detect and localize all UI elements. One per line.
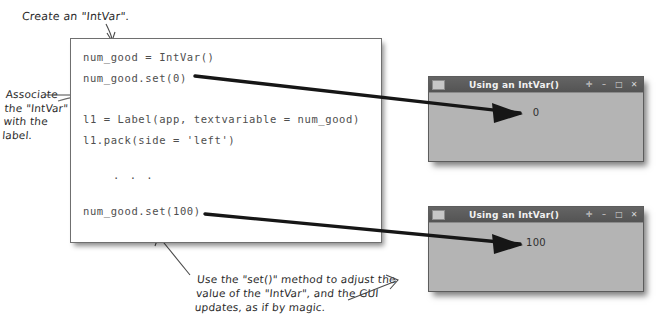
- tk-window-intvar-0[interactable]: Using an IntVar() ✛ – □ ✕ 0: [428, 76, 644, 162]
- title-bar[interactable]: Using an IntVar() ✛ – □ ✕: [429, 77, 643, 92]
- minimize-icon[interactable]: –: [600, 81, 608, 89]
- code-line: num_good.set(100): [83, 205, 201, 217]
- code-line: l1.pack(side = 'left'): [83, 134, 235, 146]
- pin-icon[interactable]: ✛: [585, 81, 593, 89]
- close-icon[interactable]: ✕: [630, 211, 638, 219]
- annotation-set-method: Use the "set()" method to adjust the val…: [194, 272, 396, 314]
- intvar-value-label: 100: [429, 237, 643, 248]
- app-icon: [432, 210, 445, 220]
- window-controls[interactable]: ✛ – □ ✕: [585, 81, 640, 89]
- window-controls[interactable]: ✛ – □ ✕: [585, 211, 640, 219]
- code-line: num_good.set(0): [83, 72, 187, 84]
- window-body: 100: [429, 222, 643, 291]
- annotation-create: Create an "IntVar".: [21, 10, 129, 24]
- code-line-ellipsis: . . .: [113, 169, 155, 181]
- minimize-icon[interactable]: –: [600, 211, 608, 219]
- annotation-associate: Associate the "IntVar" with the label.: [2, 88, 70, 142]
- code-line: l1 = Label(app, textvariable = num_good): [83, 113, 360, 125]
- maximize-icon[interactable]: □: [615, 211, 623, 219]
- maximize-icon[interactable]: □: [615, 81, 623, 89]
- pin-icon[interactable]: ✛: [585, 211, 593, 219]
- close-icon[interactable]: ✕: [630, 81, 638, 89]
- window-title: Using an IntVar(): [445, 80, 585, 90]
- code-line: num_good = IntVar(): [83, 51, 215, 63]
- app-icon: [432, 80, 445, 90]
- title-bar[interactable]: Using an IntVar() ✛ – □ ✕: [429, 207, 643, 222]
- window-body: 0: [429, 92, 643, 161]
- window-title: Using an IntVar(): [445, 210, 585, 220]
- tk-window-intvar-100[interactable]: Using an IntVar() ✛ – □ ✕ 100: [428, 206, 644, 292]
- code-listing: num_good = IntVar() num_good.set(0) l1 =…: [70, 38, 382, 243]
- intvar-value-label: 0: [429, 107, 643, 118]
